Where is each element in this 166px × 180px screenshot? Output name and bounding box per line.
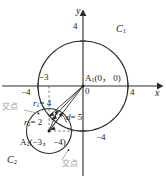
tick-label-x-right: 4: [130, 88, 135, 97]
point-a2: [48, 130, 51, 133]
radius-label-r2-value: = 2: [30, 117, 42, 127]
circle-label-c2-sub: 2: [14, 158, 17, 165]
tick-label-x-left: −4: [21, 88, 31, 97]
annotation-intersection-upper: 交点: [2, 103, 18, 111]
radius-label-r2: r2= 2: [24, 118, 42, 128]
tick-label-x-neg3: −3: [39, 73, 49, 82]
tick-label-y-top: 4: [73, 22, 78, 31]
intersection-dot-upper: [38, 113, 40, 115]
radius-label-r1: r1= 4: [33, 99, 51, 109]
segment-r2: [49, 110, 63, 131]
distance-label-d-value: = 5: [71, 112, 83, 122]
origin-label: 0: [85, 87, 90, 96]
circle-label-c2: C2: [7, 155, 17, 166]
distance-label-d: d= 5: [66, 113, 82, 122]
circle-label-c2-letter: C: [7, 154, 14, 165]
tick-label-y-bottom: −4: [96, 133, 106, 142]
center-label-a2: A2(−3， −4): [20, 138, 66, 148]
circle-label-c1: C1: [116, 24, 126, 35]
circle-label-c1-sub: 1: [123, 27, 126, 34]
center-label-a2-coords: (−3， −4): [29, 137, 65, 147]
circle-label-c1-letter: C: [116, 23, 123, 34]
center-label-a1: A1(0， 0): [85, 74, 121, 84]
intersection-dot-lower: [68, 149, 70, 151]
figure-canvas: y x 4 4 −4 −3 −4 0 C1 C2 A1(0， 0) A2(−3，…: [0, 0, 166, 180]
annotation-intersection-lower: 交点: [62, 160, 78, 168]
radius-label-r1-value: = 4: [39, 98, 51, 108]
x-axis-label: x: [155, 88, 159, 98]
y-axis-label: y: [76, 6, 80, 16]
center-label-a1-coords: (0， 0): [94, 73, 120, 83]
